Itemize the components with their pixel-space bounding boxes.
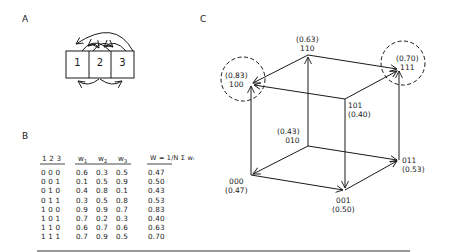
unit-3-label: 3 [111, 57, 134, 68]
cell-w3: 0.3 [116, 214, 128, 223]
vertex-100: (0.83)100 [225, 71, 248, 89]
cell-w1: 0.9 [76, 205, 88, 214]
vertex-010: (0.43)010 [277, 127, 300, 145]
cell-w1: 0.3 [76, 196, 88, 205]
cell-w2: 0.8 [96, 186, 108, 195]
cell-w2: 0.9 [96, 205, 108, 214]
cell-w2: 0.2 [96, 214, 108, 223]
cell-W: 0.43 [148, 186, 165, 195]
cell-w2: 0.5 [96, 196, 108, 205]
cell-W: 0.63 [148, 223, 165, 232]
cell-w3: 0.8 [116, 196, 128, 205]
cell-w1: 0.7 [76, 232, 88, 241]
cell-state: 1 1 1 [41, 232, 60, 241]
header-W: W = 1/N Σ wᵢ [150, 154, 194, 162]
unit-1-label: 1 [66, 57, 89, 68]
cell-w3: 0.5 [116, 232, 128, 241]
cell-state: 1 0 0 [41, 205, 60, 214]
cell-state: 0 1 0 [41, 186, 60, 195]
cell-state: 0 1 1 [41, 196, 60, 205]
cell-w2: 0.7 [96, 223, 108, 232]
vertex-110: (0.63)110 [296, 35, 319, 53]
cell-W: 0.83 [148, 205, 165, 214]
vertex-000: 000(0.47) [225, 177, 248, 195]
vertex-011: 011(0.53) [402, 156, 425, 174]
cell-state: 0 0 0 [41, 168, 60, 177]
cell-w3: 0.9 [116, 177, 128, 186]
cell-w1: 0.1 [76, 177, 88, 186]
cell-W: 0.50 [148, 177, 165, 186]
header-w2: w2 [98, 154, 107, 164]
cell-w2: 0.5 [96, 177, 108, 186]
vertex-001: 001(0.50) [332, 196, 355, 214]
cell-w1: 0.6 [76, 168, 88, 177]
cell-w3: 0.7 [116, 205, 128, 214]
cell-w3: 0.1 [116, 186, 128, 195]
cell-W: 0.53 [148, 196, 165, 205]
header-w3: w3 [118, 154, 127, 164]
cell-W: 0.70 [148, 232, 165, 241]
figure-graphics [0, 0, 456, 252]
cell-W: 0.40 [148, 214, 165, 223]
cell-state: 1 0 1 [41, 214, 60, 223]
vertex-101: 101(0.40) [348, 101, 371, 119]
header-state: 1 2 3 [42, 154, 61, 163]
vertex-111: (0.70)111 [396, 54, 419, 72]
cell-W: 0.47 [148, 168, 165, 177]
state-cube [221, 41, 425, 190]
cell-w1: 0.7 [76, 214, 88, 223]
header-w1: w1 [78, 154, 87, 164]
cell-w1: 0.6 [76, 223, 88, 232]
cell-w3: 0.5 [116, 168, 128, 177]
cell-w2: 0.9 [96, 232, 108, 241]
cell-w2: 0.3 [96, 168, 108, 177]
cell-w1: 0.4 [76, 186, 88, 195]
cell-state: 1 1 0 [41, 223, 60, 232]
unit-2-label: 2 [89, 57, 111, 68]
cell-state: 0 0 1 [41, 177, 60, 186]
cell-w3: 0.6 [116, 223, 128, 232]
